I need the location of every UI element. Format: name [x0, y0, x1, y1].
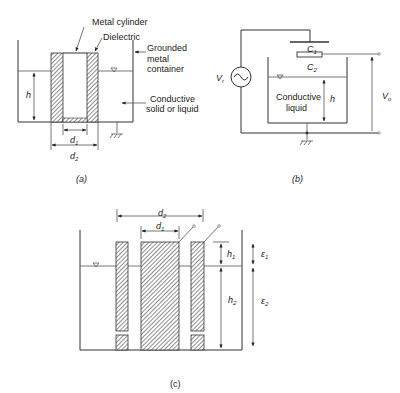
- label-eps1: ε1: [261, 249, 268, 260]
- dielectric-bottom: [63, 118, 87, 122]
- label-liquid-2: liquid: [286, 103, 307, 113]
- panel-a: Metal cylinder Dielectric Grounded metal…: [18, 17, 199, 184]
- label-dielectric: Dielectric: [103, 32, 141, 42]
- outer-tube-left-lower: [116, 335, 128, 350]
- label-vr: Vr: [216, 73, 225, 84]
- source-top-wire: [241, 30, 310, 67]
- label-d1: d1: [70, 135, 78, 146]
- label-c2: C2: [307, 62, 318, 73]
- outer-tube-right-upper: [191, 242, 204, 331]
- label-h: h: [26, 90, 31, 100]
- center-rod: [141, 242, 179, 350]
- label-conductive-2: solid or liquid: [146, 104, 199, 114]
- label-vo: Vo: [382, 91, 392, 102]
- label-grounded-2: metal: [147, 54, 169, 64]
- metal-cylinder-pointer: [76, 27, 84, 51]
- output-terminal-top: [378, 53, 380, 55]
- lead-wire-outer: [204, 227, 218, 242]
- ground-icon: [300, 141, 313, 145]
- dielectric-right-wall: [87, 53, 98, 122]
- panel-b: Vr C1 C2 Conductive liquid h Vo (b): [216, 30, 392, 184]
- label-conductive-1: Conductive: [150, 94, 195, 104]
- junction-dot: [306, 132, 309, 135]
- caption-b: (b): [292, 174, 303, 184]
- label-h2: h2: [228, 295, 237, 306]
- label-liquid-1: Conductive: [276, 92, 321, 102]
- dielectric-left-wall: [51, 53, 63, 122]
- label-h1: h1: [227, 249, 235, 260]
- panel-c: d2 d1 h1 h2 ε1 ε2 (c): [80, 208, 269, 389]
- diagram-canvas: Metal cylinder Dielectric Grounded metal…: [0, 0, 400, 393]
- label-d2: d2: [158, 208, 167, 219]
- output-terminal-bottom: [378, 132, 380, 134]
- label-eps2: ε2: [261, 296, 269, 307]
- label-metal-cylinder: Metal cylinder: [92, 17, 148, 27]
- label-grounded-1: Grounded: [147, 43, 187, 53]
- label-grounded-3: container: [147, 64, 184, 74]
- terminal-center: [193, 225, 196, 228]
- caption-c: (c): [170, 379, 181, 389]
- terminal-outer: [218, 225, 221, 228]
- dielectric-pointer: [95, 38, 102, 51]
- ground-icon: [110, 134, 123, 138]
- caption-a: (a): [76, 174, 87, 184]
- label-h: h: [330, 94, 335, 104]
- outer-tube-left-upper: [116, 242, 128, 331]
- label-d1: d1: [156, 221, 164, 232]
- label-c1: C1: [307, 44, 317, 55]
- outer-tube-right-lower: [191, 335, 204, 350]
- lead-wire-center: [179, 227, 193, 242]
- grounded-container: [18, 40, 133, 122]
- label-d2: d2: [70, 151, 79, 162]
